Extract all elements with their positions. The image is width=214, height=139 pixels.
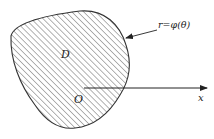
polar-region-diagram: D O x r=φ(θ) xyxy=(0,0,214,139)
region-label: D xyxy=(60,48,70,61)
x-axis-label: x xyxy=(198,92,204,103)
region-d-shape xyxy=(11,11,129,128)
curve-equation-label: r=φ(θ) xyxy=(158,19,191,30)
origin-label: O xyxy=(74,93,83,106)
curve-leader-arrow xyxy=(126,30,157,38)
